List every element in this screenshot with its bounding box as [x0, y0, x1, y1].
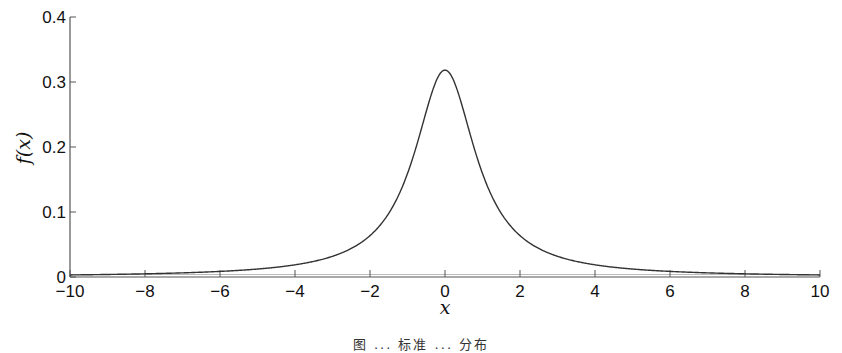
x-tick-label: 2: [515, 282, 524, 301]
x-tick-label: −4: [285, 282, 304, 301]
x-axis-title: x: [440, 296, 451, 318]
y-tick-label: 0.4: [42, 8, 66, 27]
x-tick-label: 10: [811, 282, 830, 301]
x-tick-label: −2: [360, 282, 379, 301]
y-tick-label: 0.3: [42, 73, 66, 92]
y-tick-label: 0.1: [42, 203, 66, 222]
x-tick-label: 8: [740, 282, 749, 301]
density-curve: [70, 70, 820, 275]
y-axis-title: f(x): [12, 132, 34, 167]
figure-caption: 图 ... 标准 ... 分布: [0, 334, 842, 353]
x-tick-label: −10: [56, 282, 85, 301]
x-tick-label: −6: [210, 282, 229, 301]
y-axis: 00.10.20.30.4: [42, 8, 76, 287]
x-tick-label: 4: [590, 282, 599, 301]
y-tick-label: 0.2: [42, 138, 66, 157]
x-tick-label: 6: [665, 282, 674, 301]
x-tick-label: −8: [135, 282, 154, 301]
